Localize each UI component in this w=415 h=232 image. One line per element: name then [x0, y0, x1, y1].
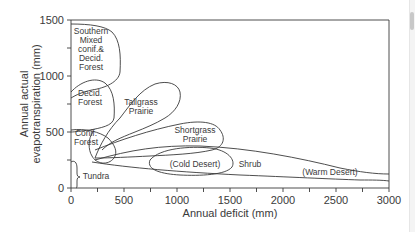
- x-tick-label: 1000: [165, 194, 189, 206]
- y-tick-label: 0: [58, 182, 64, 194]
- x-tick-label: 2000: [271, 194, 295, 206]
- region-outlines: [71, 24, 389, 188]
- label-conif-2: Forest: [74, 137, 99, 147]
- svg-text:Annual actual: Annual actual: [18, 71, 30, 138]
- label-shortgrass-2: Prairie: [183, 134, 208, 144]
- biome-chart: 1500 1000 500 0 0 500 1000 1500 2000 250…: [0, 0, 415, 232]
- x-ticks: [71, 188, 389, 192]
- x-tick-label: 3000: [377, 194, 401, 206]
- label-tundra: Tundra: [83, 171, 110, 181]
- tundra-brace: [71, 161, 80, 188]
- y-tick-label: 1500: [40, 14, 64, 26]
- axes: 1500 1000 500 0 0 500 1000 1500 2000 250…: [18, 14, 401, 219]
- label-cold-desert: (Cold Desert): [170, 159, 221, 169]
- y-ticks: [67, 20, 71, 188]
- vertical-scrollbar[interactable]: [409, 0, 415, 232]
- scrollbar-thumb[interactable]: [410, 12, 414, 30]
- label-tallgrass-2: Prairie: [129, 106, 154, 116]
- y-axis-title: Annual actual evapotranspiration (mm): [18, 44, 42, 163]
- y-tick-label: 500: [46, 126, 64, 138]
- x-tick-label: 0: [68, 194, 74, 206]
- label-shrub: Shrub: [239, 159, 262, 169]
- svg-text:evapotranspiration (mm): evapotranspiration (mm): [30, 44, 42, 163]
- x-tick-label: 500: [115, 194, 133, 206]
- label-southern-5: Forest: [79, 62, 104, 72]
- y-tick-label: 1000: [40, 70, 64, 82]
- x-tick-label: 2500: [324, 194, 348, 206]
- x-axis-title: Annual deficit (mm): [183, 207, 278, 219]
- label-warm-desert: (Warm Desert): [302, 167, 358, 177]
- label-decid-2: Forest: [78, 97, 103, 107]
- x-tick-label: 1500: [218, 194, 242, 206]
